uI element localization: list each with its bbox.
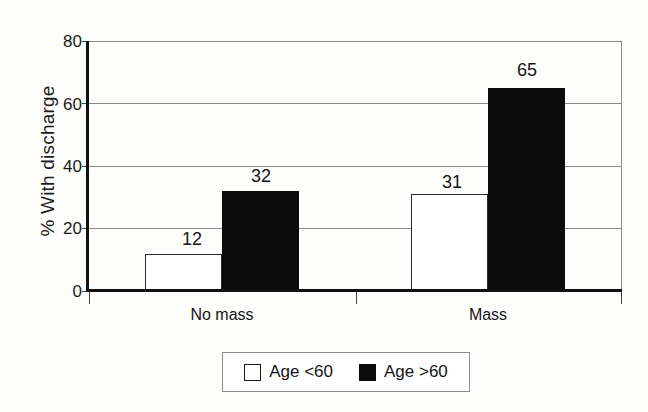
y-tick-label-80: 80	[48, 33, 82, 50]
y-tick-label-20: 20	[48, 220, 82, 237]
legend-swatch-black-square-icon	[359, 364, 376, 381]
x-axis-line	[86, 289, 622, 292]
legend-swatch-white-square-icon	[244, 364, 261, 381]
x-axis-label-no-mass: No mass	[172, 306, 272, 324]
y-tick-label-0: 0	[48, 283, 82, 300]
gridline-80	[89, 41, 622, 42]
legend-item-age-under-60: Age <60	[244, 362, 333, 382]
bar-value-no-mass-age-over-60: 32	[232, 167, 290, 185]
bar-value-mass-age-over-60: 65	[498, 61, 556, 79]
y-tick-label-40: 40	[48, 158, 82, 175]
bar-mass-age-under-60	[411, 194, 488, 291]
y-axis-line	[86, 41, 89, 292]
legend-label-age-over-60: Age >60	[384, 362, 448, 382]
x-axis-tick-start	[89, 292, 90, 304]
bar-mass-age-over-60	[488, 88, 565, 291]
x-axis-tick-middle	[356, 292, 357, 304]
bar-no-mass-age-under-60	[145, 254, 222, 292]
bar-no-mass-age-over-60	[222, 191, 299, 291]
bar-value-mass-age-under-60: 31	[423, 173, 481, 191]
bar-value-no-mass-age-under-60: 12	[163, 230, 221, 248]
x-axis-tick-end	[621, 292, 622, 304]
chart-legend: Age <60 Age >60	[222, 352, 470, 392]
legend-item-age-over-60: Age >60	[359, 362, 448, 382]
bar-chart: % With discharge 80 60 40 20 0 12 32 31 …	[0, 0, 648, 412]
y-tick-label-60: 60	[48, 96, 82, 113]
legend-label-age-under-60: Age <60	[269, 362, 333, 382]
plot-right-border	[621, 41, 622, 291]
x-axis-label-mass: Mass	[448, 306, 528, 324]
